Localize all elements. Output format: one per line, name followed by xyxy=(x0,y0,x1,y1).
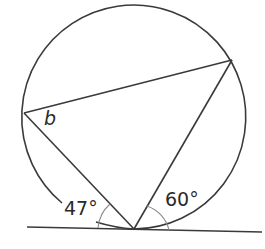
angle-label-47: 47° xyxy=(64,199,98,218)
circle-theorem-diagram: b 47° 60° xyxy=(0,0,265,249)
angle-label-b: b xyxy=(44,109,56,128)
angle-label-60: 60° xyxy=(165,190,199,209)
diagram-svg xyxy=(0,0,265,249)
chord-left-to-top-right xyxy=(24,60,232,113)
